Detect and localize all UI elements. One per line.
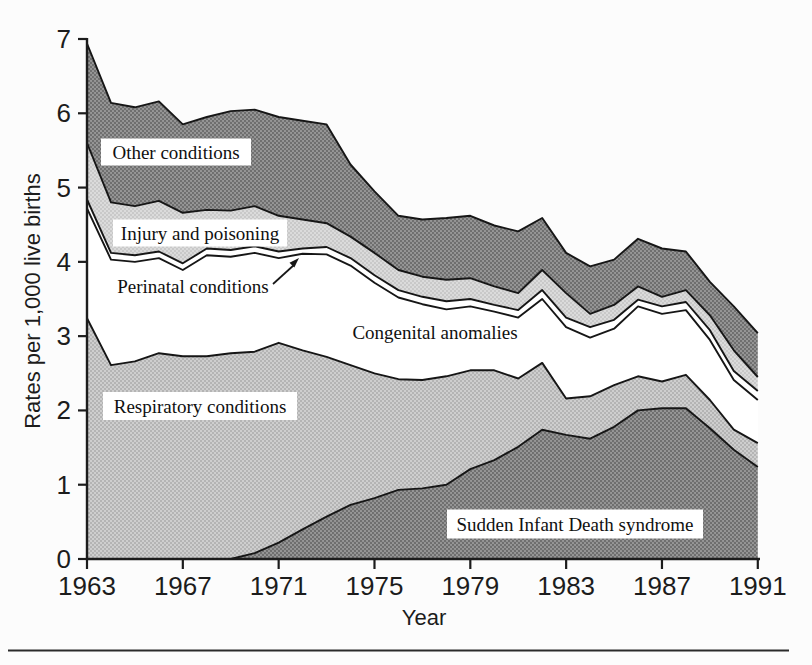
label-text-injury: Injury and poisoning (121, 223, 280, 244)
label-sids: Sudden Infant Death syndrome (447, 510, 703, 539)
y-tick-label: 1 (57, 470, 71, 500)
x-axis-title: Year (402, 605, 446, 630)
label-text-other: Other conditions (112, 142, 239, 163)
x-tick-label: 1987 (633, 571, 691, 601)
y-tick-label: 7 (57, 24, 71, 54)
y-tick-label: 2 (57, 395, 71, 425)
scanned-chart-page: 01234567 1963196719711975197919831987199… (0, 0, 812, 665)
y-axis-title: Rates per 1,000 live births (20, 173, 45, 429)
x-tick-label: 1983 (537, 571, 595, 601)
label-text-perinatal: Perinatal conditions (117, 276, 268, 297)
x-tick-label: 1975 (346, 571, 404, 601)
y-tick-label: 3 (57, 321, 71, 351)
label-respiratory: Respiratory conditions (103, 392, 297, 420)
x-tick-label: 1967 (154, 571, 212, 601)
y-tick-label: 6 (57, 98, 71, 128)
x-tick-label: 1963 (58, 571, 116, 601)
y-tick-label: 5 (57, 173, 71, 203)
label-other: Other conditions (101, 139, 251, 166)
y-tick-label: 0 (57, 544, 71, 574)
label-text-sids: Sudden Infant Death syndrome (457, 514, 694, 535)
y-axis-ticks: 01234567 (57, 24, 87, 574)
label-congenital: Congenital anomalies (352, 322, 517, 343)
stacked-area-chart: 01234567 1963196719711975197919831987199… (0, 0, 812, 665)
x-axis-ticks: 19631967197119751979198319871991 (58, 559, 787, 601)
y-tick-label: 4 (57, 247, 71, 277)
area-layers (87, 44, 758, 560)
x-tick-label: 1971 (250, 571, 308, 601)
x-tick-label: 1979 (441, 571, 499, 601)
label-injury: Injury and poisoning (113, 220, 287, 247)
label-text-respiratory: Respiratory conditions (114, 396, 287, 417)
label-text-congenital: Congenital anomalies (352, 322, 517, 343)
x-tick-label: 1991 (729, 571, 787, 601)
